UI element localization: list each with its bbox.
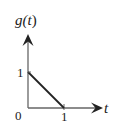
g-of-t-line — [28, 72, 64, 108]
function-plot: g(t) t 0 1 1 — [0, 0, 115, 129]
y-axis-label-g: g( — [15, 12, 29, 29]
y-axis-label-close: ) — [32, 12, 37, 29]
y-axis-label: g(t) — [15, 12, 37, 29]
origin-label: 0 — [15, 108, 22, 123]
x-tick-label-1: 1 — [61, 109, 68, 124]
y-tick-label-1: 1 — [17, 65, 24, 80]
x-axis-label: t — [104, 100, 109, 116]
